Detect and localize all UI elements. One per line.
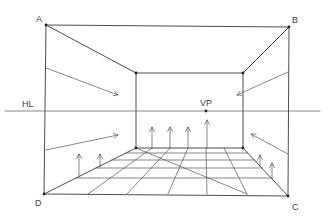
room-structure <box>5 25 320 196</box>
floor-grid <box>76 148 272 194</box>
diagram-svg: A B C D HL VP <box>0 0 329 224</box>
floor-front-edge <box>44 194 288 196</box>
vertex-dot <box>242 147 245 150</box>
label-corner-c: C <box>292 202 299 212</box>
orthogonal-d <box>44 148 136 194</box>
vertex-dot <box>45 24 48 27</box>
floor-diagonal <box>136 148 247 194</box>
wall-arrow <box>251 134 288 154</box>
label-horizon-line: HL <box>22 99 34 109</box>
orthogonal-a <box>46 25 136 73</box>
right-front-edge <box>288 27 289 196</box>
vertex-dot <box>287 195 290 198</box>
vertex-dot <box>288 26 291 29</box>
wall-arrow <box>237 72 288 95</box>
wall-arrow <box>46 68 118 95</box>
floor-orthogonal <box>206 148 207 194</box>
vertex-dots <box>43 24 291 198</box>
orthogonal-c <box>243 148 288 196</box>
vertex-dot <box>135 147 138 150</box>
label-corner-d: D <box>35 198 42 208</box>
vertex-dot <box>135 72 138 75</box>
perspective-diagram: A B C D HL VP <box>0 0 329 224</box>
ceiling-front-edge <box>46 25 289 27</box>
orthogonal-b <box>243 27 289 73</box>
floor-orthogonal <box>224 148 247 194</box>
floor-orthogonal <box>168 148 188 194</box>
label-vanishing-point: VP <box>200 98 212 108</box>
floor-orthogonal <box>127 148 170 194</box>
direction-arrows <box>46 68 288 178</box>
left-front-edge <box>44 25 46 194</box>
label-corner-a: A <box>36 14 42 24</box>
floor-orthogonal <box>88 148 152 194</box>
wall-arrow <box>46 135 118 150</box>
label-corner-b: B <box>292 15 298 25</box>
vanishing-point-dot <box>205 110 208 113</box>
vertex-dot <box>242 72 245 75</box>
vertex-dot <box>43 193 46 196</box>
